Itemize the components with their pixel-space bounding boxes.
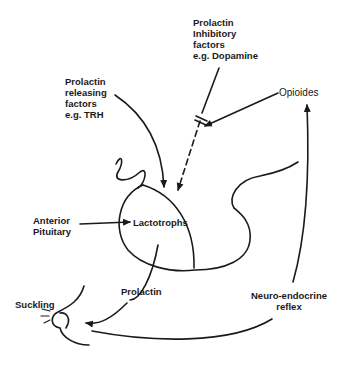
prolactin-arrow [86,245,158,323]
pif-line-1: Prolactin [193,17,258,28]
prf-line-3: factors [65,98,107,109]
anterior-pituitary-arrow [80,222,130,224]
nipple-sketch [60,313,68,328]
pif-line-3: factors [193,39,258,50]
suckling-label: Suckling [15,299,55,310]
neuro-endocrine-line-1: Neuro-endocrine [251,290,327,301]
prf-line-4: e.g. TRH [65,109,107,120]
pituitary-outline-left [116,159,145,188]
prolactin-label: Prolactin [121,286,162,297]
anterior-pituitary-label: Anterior Pituitary [33,215,71,237]
pif-inhibition-bar-1 [196,116,207,121]
neuro-endocrine-line-2: reflex [251,301,327,312]
opioides-arrow [205,93,278,126]
pif-label: Prolactin Inhibitory factors e.g. Dopami… [193,17,258,61]
prf-line-1: Prolactin [65,76,107,87]
pituitary-outline-right [232,162,298,208]
pituitary-line: Pituitary [33,226,71,237]
pif-arrow-solid [202,68,219,113]
opioides-label: Opioides [279,87,318,98]
pif-line-4: e.g. Dopamine [193,50,258,61]
pif-line-2: Inhibitory [193,28,258,39]
anterior-line: Anterior [33,215,71,226]
neuro-endocrine-reflex-label: Neuro-endocrine reflex [251,290,327,312]
pif-arrow-dashed [178,121,200,190]
breast-sketch [52,286,89,345]
prf-line-2: releasing [65,87,107,98]
lactotrophs-label: Lactotrophs [133,217,188,228]
suckling-motion-lines [41,309,50,323]
prf-label: Prolactin releasing factors e.g. TRH [65,76,107,120]
